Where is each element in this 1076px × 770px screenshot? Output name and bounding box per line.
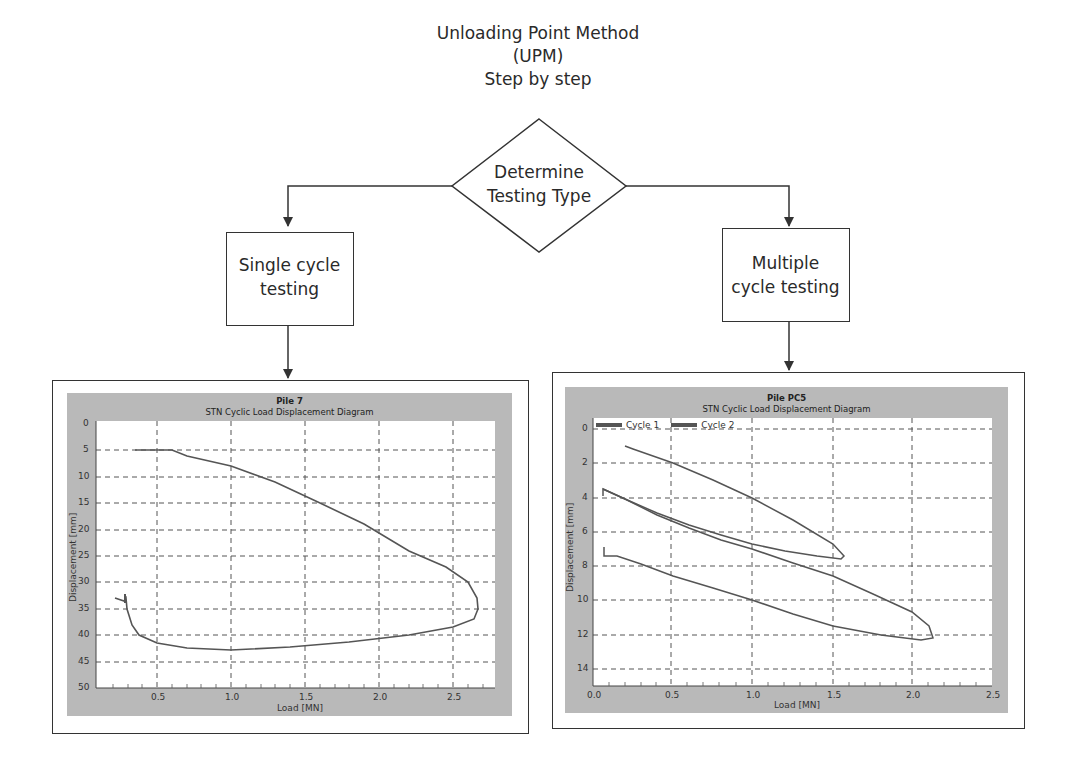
legend-swatch-cycle-2 (671, 423, 697, 427)
right-ytick-6: 6 (582, 526, 588, 536)
right-ytick-14: 14 (577, 663, 588, 673)
legend-label-cycle-2: Cycle 2 (701, 420, 734, 430)
right-ytick-4: 4 (582, 492, 588, 502)
right-chart-plot (0, 0, 1076, 770)
right-xlabel: Load [MN] (774, 700, 820, 710)
right-xtick-1.5: 1.5 (827, 690, 841, 700)
right-ytick-12: 12 (577, 629, 588, 639)
right-ytick-10: 10 (577, 594, 588, 604)
right-ylabel: Displacement [mm] (565, 503, 575, 592)
right-xtick-2.5: 2.5 (986, 690, 1000, 700)
legend-label-cycle-1: Cycle 1 (626, 420, 659, 430)
right-xtick-2.0: 2.0 (906, 690, 920, 700)
legend-swatch-cycle-1 (596, 423, 622, 427)
right-xtick-0.0: 0.0 (587, 690, 601, 700)
right-chart-legend: Cycle 1 Cycle 2 (596, 420, 734, 430)
right-ytick-2: 2 (582, 457, 588, 467)
right-ytick-0: 0 (582, 423, 588, 433)
right-xtick-1.0: 1.0 (746, 690, 760, 700)
right-xtick-0.5: 0.5 (665, 690, 679, 700)
right-ytick-8: 8 (582, 560, 588, 570)
